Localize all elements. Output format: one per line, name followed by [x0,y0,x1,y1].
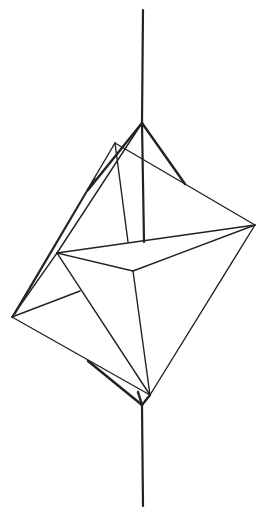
apex2-to-inner [115,143,128,242]
axis-upper [142,10,143,123]
front-left-to-left [12,253,57,317]
polyhedron-figure [0,0,262,516]
axis-lower [142,405,143,506]
front-left-to-right [57,225,255,253]
bottom-arm-right [142,395,150,405]
apex2-to-left [12,143,115,317]
right-to-bottom [150,225,255,395]
top-arm-right [142,123,185,184]
polyhedron-drawing [0,0,262,516]
apex2-to-right [115,143,255,225]
left-to-leftmid [12,291,80,317]
bottom-arm-left [88,361,142,405]
axis-inner [142,123,144,242]
left-to-bottom [12,317,150,395]
left-edge-a [57,123,142,253]
front-left-to-center [57,253,133,271]
center-to-right [133,225,255,271]
top-arm-left [88,123,142,190]
center-to-bottom [133,271,150,395]
